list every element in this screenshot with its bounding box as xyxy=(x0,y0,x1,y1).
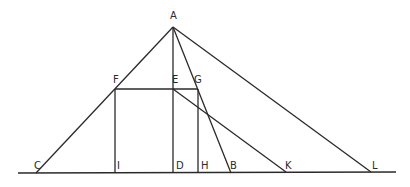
point-label-e: E xyxy=(172,74,178,85)
point-label-c: C xyxy=(34,160,41,171)
point-label-k: K xyxy=(285,160,292,171)
segment-al xyxy=(173,27,371,172)
point-label-l: L xyxy=(372,160,378,171)
segment-ac xyxy=(36,27,173,173)
point-label-i: I xyxy=(117,160,120,171)
point-label-d: D xyxy=(176,160,184,171)
diagram-lines xyxy=(18,27,396,173)
geometry-diagram: AFEGCIDHBKL xyxy=(0,0,410,187)
diagram-labels: AFEGCIDHBKL xyxy=(34,10,378,171)
point-label-g: G xyxy=(194,74,202,85)
baseline-segment xyxy=(18,172,396,173)
point-label-f: F xyxy=(113,74,119,85)
point-label-h: H xyxy=(201,160,209,171)
point-label-a: A xyxy=(170,10,177,21)
point-label-b: B xyxy=(230,160,237,171)
